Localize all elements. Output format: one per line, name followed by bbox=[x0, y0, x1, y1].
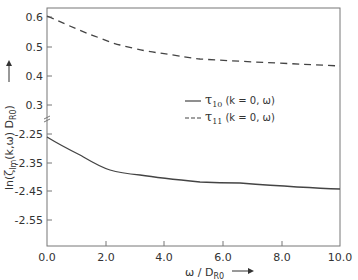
svg-text:τ11(k = 0, ω): τ11(k = 0, ω) bbox=[205, 109, 275, 126]
x-tick-label: 2.0 bbox=[97, 251, 115, 264]
x-ticks bbox=[106, 241, 282, 246]
legend-item-tau10: τ10(k = 0, ω) bbox=[185, 92, 275, 109]
y-axis-label: ln(ζlm(k,ω) DR0) bbox=[3, 60, 18, 190]
legend-item-tau11: τ11(k = 0, ω) bbox=[185, 109, 275, 126]
x-tick-label: 6.0 bbox=[214, 251, 232, 264]
series-tau11-line bbox=[47, 16, 340, 66]
x-axis-label: ω / DR0 bbox=[185, 266, 254, 280]
legend: τ10(k = 0, ω) τ11(k = 0, ω) bbox=[185, 92, 275, 126]
svg-text:ω / DR0: ω / DR0 bbox=[185, 266, 224, 280]
y-tick-label: 0.3 bbox=[26, 99, 44, 112]
y-ticks-upper bbox=[47, 17, 52, 105]
svg-text:τ10(k = 0, ω): τ10(k = 0, ω) bbox=[205, 92, 275, 109]
y-tick-label: 0.6 bbox=[26, 11, 44, 24]
x-tick-label: 8.0 bbox=[273, 251, 291, 264]
y-tick-label: 0.5 bbox=[26, 41, 44, 54]
y-tick-label: -2.25 bbox=[15, 128, 43, 141]
y-tick-label: -2.35 bbox=[15, 157, 43, 170]
y-tick-label: -2.45 bbox=[15, 185, 43, 198]
x-tick-label: 10.0 bbox=[328, 251, 353, 264]
svg-text:ln(ζlm(k,ω) DR0): ln(ζlm(k,ω) DR0) bbox=[3, 105, 18, 190]
plot-frame bbox=[47, 8, 340, 246]
y-tick-label: -2.55 bbox=[15, 214, 43, 227]
y-tick-label: 0.4 bbox=[26, 70, 44, 83]
y-ticks-lower bbox=[47, 134, 52, 220]
x-tick-label: 0.0 bbox=[38, 251, 56, 264]
series-tau10-line bbox=[47, 137, 340, 189]
arrow-head-icon bbox=[248, 268, 254, 274]
chart: 0.6 0.5 0.4 0.3 -2.25 -2.35 -2.45 -2.55 … bbox=[0, 0, 358, 280]
x-tick-label: 4.0 bbox=[155, 251, 173, 264]
arrow-head-icon bbox=[6, 60, 12, 66]
